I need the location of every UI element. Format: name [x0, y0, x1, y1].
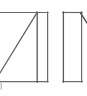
diagonal-brace-line [0, 13, 37, 81]
right-panel-group [63, 12, 87, 82]
left-panel-group [0, 12, 48, 82]
line-drawing-svg [0, 0, 87, 96]
figure-canvas [0, 0, 87, 96]
